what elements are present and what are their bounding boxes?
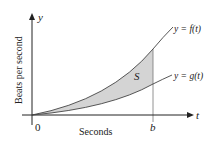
- x-axis-arrow-icon: [187, 112, 194, 118]
- region-label: S: [134, 70, 140, 82]
- area-between-curves-diagram: y t 0 b Seconds Beats per second S y = f…: [0, 0, 213, 142]
- curve-g-label: y = g(t): [173, 71, 203, 82]
- curve-f-label: y = f(t): [173, 24, 201, 35]
- origin-label: 0: [35, 121, 41, 133]
- x-axis-label: Seconds: [79, 126, 112, 137]
- diagram-canvas: y t 0 b Seconds Beats per second S y = f…: [0, 0, 213, 142]
- x-axis-var: t: [196, 109, 200, 121]
- b-label: b: [150, 121, 156, 133]
- y-axis-label: Beats per second: [13, 36, 24, 104]
- region-s: [32, 49, 153, 115]
- y-axis-var: y: [37, 11, 43, 23]
- y-axis-arrow-icon: [29, 13, 35, 20]
